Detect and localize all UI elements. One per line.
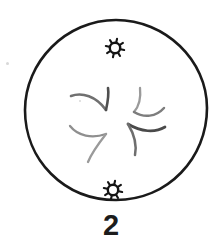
- figure-caption: 2: [0, 208, 222, 242]
- paper-speck-center: [79, 100, 81, 102]
- cell-membrane-group: [25, 20, 207, 200]
- figure-root: 2: [0, 0, 222, 248]
- cell-membrane-outline: [25, 20, 207, 200]
- paper-speck-left: [6, 62, 9, 65]
